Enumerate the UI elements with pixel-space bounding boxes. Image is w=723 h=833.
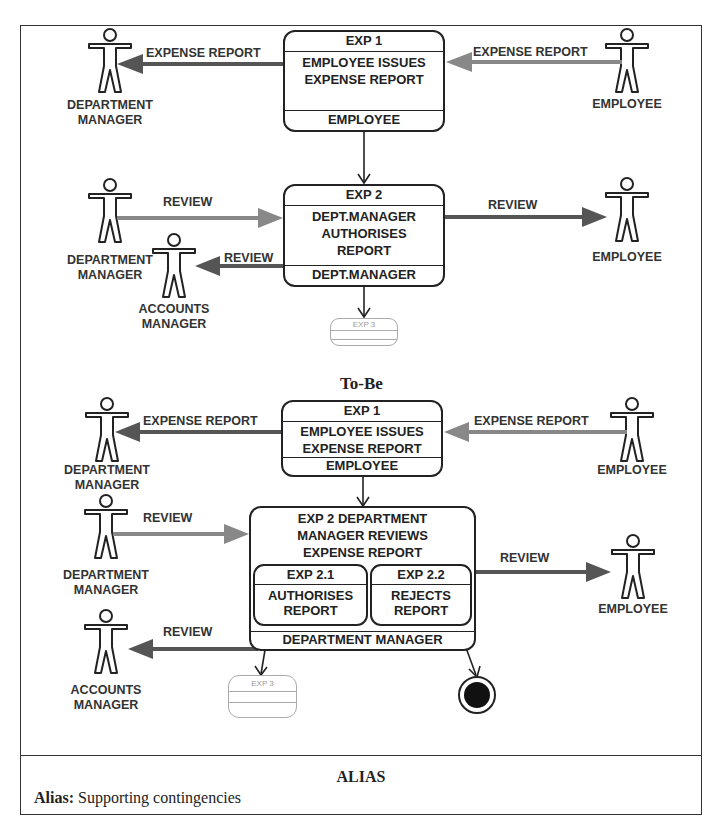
actor-icon bbox=[85, 610, 127, 673]
actor-label-department-manager: DEPARTMENTMANAGER bbox=[67, 98, 153, 128]
substate-exp2-1[interactable]: EXP 2.1 AUTHORISES REPORT bbox=[253, 564, 368, 626]
section-title-to-be: To-Be bbox=[0, 374, 723, 394]
flow-label: REVIEW bbox=[163, 195, 212, 209]
actor-icon bbox=[612, 535, 654, 598]
flow-label: REVIEW bbox=[143, 511, 192, 525]
state-line: REPORT bbox=[255, 603, 366, 618]
alias-line: Alias: Supporting contingencies bbox=[34, 789, 241, 807]
state-line: EXP 2 DEPARTMENT bbox=[251, 510, 474, 527]
end-state-icon bbox=[459, 677, 495, 713]
state-line: DEPT.MANAGER bbox=[285, 208, 443, 225]
arrow-down-icon bbox=[358, 287, 370, 317]
flow-label: REVIEW bbox=[488, 198, 537, 212]
alias-label: Alias: bbox=[34, 789, 74, 806]
state-exp3-as-is[interactable]: EXP 3 bbox=[330, 318, 398, 346]
state-line: EXPENSE REPORT bbox=[285, 71, 443, 88]
actor-icon bbox=[611, 398, 653, 461]
state-exp1-to-be[interactable]: EXP 1 EMPLOYEE ISSUES EXPENSE REPORT EMP… bbox=[281, 400, 443, 477]
actor-label-employee: EMPLOYEE bbox=[598, 602, 667, 617]
flow-label: EXPENSE REPORT bbox=[474, 414, 589, 428]
state-id: EXP 1 bbox=[285, 32, 443, 52]
flow-label: REVIEW bbox=[500, 551, 549, 565]
state-id: EXP 2.1 bbox=[255, 566, 366, 585]
state-line: REPORT bbox=[372, 603, 470, 618]
state-line: AUTHORISES bbox=[285, 225, 443, 242]
state-line: REJECTS bbox=[372, 588, 470, 603]
state-line: EMPLOYEE ISSUES bbox=[283, 423, 441, 440]
actor-label-employee: EMPLOYEE bbox=[592, 97, 661, 112]
state-id: EXP 2 bbox=[285, 186, 443, 206]
state-line: EXPENSE REPORT bbox=[251, 544, 474, 561]
state-id: EXP 3 bbox=[229, 676, 296, 692]
arrow-right-icon bbox=[113, 524, 249, 544]
arrow-right-icon bbox=[476, 562, 611, 582]
actor-icon bbox=[89, 29, 131, 92]
state-actor: DEPARTMENT MANAGER bbox=[251, 631, 474, 649]
state-line: AUTHORISES bbox=[255, 588, 366, 603]
actor-icon bbox=[85, 495, 127, 558]
actor-label-employee: EMPLOYEE bbox=[597, 463, 666, 478]
actor-label-department-manager: DEPARTMENTMANAGER bbox=[67, 253, 153, 283]
arrow-left-icon bbox=[128, 639, 258, 659]
actor-icon bbox=[153, 234, 195, 297]
flow-label: REVIEW bbox=[224, 251, 273, 265]
substate-exp2-2[interactable]: EXP 2.2 REJECTS REPORT bbox=[370, 564, 472, 626]
arrow-right-icon bbox=[117, 208, 283, 228]
state-line: REPORT bbox=[285, 242, 443, 259]
actor-label-employee: EMPLOYEE bbox=[592, 250, 661, 265]
state-line: EMPLOYEE ISSUES bbox=[285, 54, 443, 71]
state-exp3-to-be[interactable]: EXP 3 bbox=[228, 675, 297, 718]
state-exp1-as-is[interactable]: EXP 1 EMPLOYEE ISSUES EXPENSE REPORT EMP… bbox=[283, 30, 445, 132]
state-actor: EMPLOYEE bbox=[283, 457, 441, 475]
flow-label: EXPENSE REPORT bbox=[146, 46, 261, 60]
actor-icon bbox=[89, 179, 131, 242]
alias-title: ALIAS bbox=[20, 768, 702, 786]
state-id: EXP 3 bbox=[331, 319, 397, 331]
actor-label-department-manager: DEPARTMENTMANAGER bbox=[64, 463, 150, 493]
actor-icon bbox=[606, 178, 648, 241]
state-actor: DEPT.MANAGER bbox=[285, 265, 443, 285]
flow-label: EXPENSE REPORT bbox=[473, 45, 588, 59]
arrow-down-icon bbox=[357, 477, 369, 506]
actor-label-accounts-manager: ACCOUNTSMANAGER bbox=[139, 302, 210, 332]
flow-label: EXPENSE REPORT bbox=[143, 414, 258, 428]
state-exp2-as-is[interactable]: EXP 2 DEPT.MANAGER AUTHORISES REPORT DEP… bbox=[283, 184, 445, 287]
state-id: EXP 1 bbox=[283, 402, 441, 422]
state-id: EXP 2.2 bbox=[372, 566, 470, 585]
arrow-down-icon bbox=[358, 132, 370, 183]
alias-value: Supporting contingencies bbox=[78, 789, 241, 806]
actor-label-accounts-manager: ACCOUNTSMANAGER bbox=[71, 683, 142, 713]
flow-label: REVIEW bbox=[163, 625, 212, 639]
state-line: MANAGER REVIEWS bbox=[251, 527, 474, 544]
actor-label-department-manager: DEPARTMENTMANAGER bbox=[63, 568, 149, 598]
state-line: EXPENSE REPORT bbox=[283, 440, 441, 457]
state-actor: EMPLOYEE bbox=[285, 110, 443, 130]
